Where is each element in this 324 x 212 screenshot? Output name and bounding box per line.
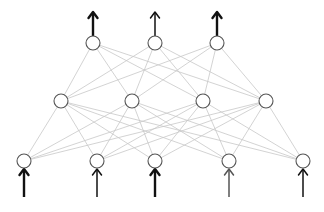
input-node [148,154,162,168]
input-arrow-icon [151,169,160,197]
connection-edge [155,101,266,161]
input-node [222,154,236,168]
connection-edge [97,101,266,161]
input-arrow-icon [20,169,29,197]
output-node [86,36,100,50]
connection-edge [155,101,203,161]
connection-edge [132,43,155,101]
connection-edge [93,43,203,101]
connection-edge [61,43,93,101]
hidden-node [125,94,139,108]
connection-edge [24,101,61,161]
connection-edge [61,101,155,161]
input-node [296,154,310,168]
connection-edge [93,43,132,101]
output-node [148,36,162,50]
hidden-node [54,94,68,108]
connection-edge [24,101,132,161]
connection-edge [132,43,217,101]
input-node [90,154,104,168]
connection-edge [266,101,303,161]
neural-network-diagram [0,0,324,212]
connection-edge [217,43,266,101]
output-arrow-icon [151,12,160,36]
hidden-node [196,94,210,108]
output-arrow-icon [213,12,222,36]
input-arrow-icon [299,169,308,197]
connection-edge [203,101,229,161]
input-arrow-icon [93,169,102,197]
output-node [210,36,224,50]
connection-edge [61,101,97,161]
output-arrow-icon [89,12,98,36]
connection-edge [61,43,217,101]
hidden-node [259,94,273,108]
input-arrow-icon [225,169,234,197]
connection-edge [203,43,217,101]
connection-edge [155,43,266,101]
connection-edge [24,101,266,161]
connection-edge [155,43,203,101]
connection-edge [229,101,266,161]
input-node [17,154,31,168]
connection-edge [61,43,155,101]
